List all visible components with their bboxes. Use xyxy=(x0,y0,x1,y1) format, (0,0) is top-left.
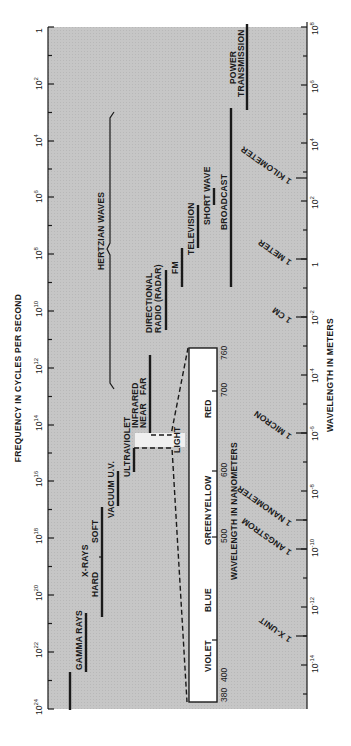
wavelength-tick-label: 104 xyxy=(309,138,320,151)
wavelength-tick-label: 10-12 xyxy=(309,596,320,615)
nm-axis-title: WAVELENGTH IN NANOMETERS xyxy=(229,442,239,580)
frequency-tick-label: 1016 xyxy=(33,470,44,487)
wavelength-tick-label: 106 xyxy=(309,80,320,93)
x-rays-label: X-RAYS xyxy=(80,544,90,577)
frequency-tick-label: 1022 xyxy=(33,641,44,658)
wavelength-tick-label: 1 xyxy=(310,262,320,267)
wavelength-axis-title: WAVELENGTH IN METERS xyxy=(325,318,335,432)
wavelength-tick-label: 10-6 xyxy=(309,426,320,441)
wavelength-tick-label: 10-4 xyxy=(309,368,320,383)
nm-tick-760: 760 xyxy=(219,346,229,360)
wavelength-tick-label: 10-2 xyxy=(309,310,320,325)
directional-label-2: RADIO (RADAR) xyxy=(153,264,163,333)
frequency-tick-label: 1014 xyxy=(33,414,44,431)
color-green: GREEN xyxy=(203,514,213,545)
frequency-tick-label: 106 xyxy=(33,190,44,203)
color-violet: VIOLET xyxy=(203,639,213,672)
gamma-rays-label: GAMMA RAYS xyxy=(74,610,84,670)
frequency-tick-label: 1024 xyxy=(33,698,44,715)
spectrum-band-background xyxy=(48,27,307,709)
hertzian-waves-label: HERTZIAN WAVES xyxy=(96,192,106,270)
television-label: TELEVISION xyxy=(186,202,196,255)
frequency-axis-title: FREQUENCY IN CYCLES PER SECOND xyxy=(13,294,23,462)
em-spectrum-diagram: 1102104106108101010121014101610181020102… xyxy=(0,0,351,746)
fm-label: FM xyxy=(170,261,180,274)
infrared-near-label: NEAR xyxy=(138,403,148,428)
nm-tick-700: 700 xyxy=(219,383,229,397)
vacuum-uv-label: VACUUM U.V. xyxy=(106,461,116,518)
frequency-tick-label: 102 xyxy=(33,77,44,90)
light-label: LIGHT xyxy=(172,426,182,453)
nm-tick-600: 600 xyxy=(219,463,229,477)
frequency-tick-label: 104 xyxy=(33,134,44,147)
frequency-tick-label: 1020 xyxy=(33,584,44,601)
nm-tick-380: 380 xyxy=(219,688,229,702)
frequency-tick-label: 1010 xyxy=(33,300,44,317)
wavelength-tick-label: 10-14 xyxy=(309,654,320,673)
nm-tick-400: 400 xyxy=(219,668,229,682)
color-blue: BLUE xyxy=(203,588,213,612)
xray-hard-label: HARD xyxy=(90,572,100,597)
wavelength-tick-label: 10-8 xyxy=(309,484,320,499)
wavelength-tick-label: 108 xyxy=(309,22,320,35)
xray-soft-label: SOFT xyxy=(90,519,100,543)
frequency-tick-label: 1012 xyxy=(33,357,44,374)
frequency-axis: 1102104106108101010121014101610181020102… xyxy=(13,27,54,715)
wavelength-tick-label: 10-10 xyxy=(309,538,320,557)
frequency-tick-label: 108 xyxy=(33,247,44,260)
power-label-2: TRANSMISSION xyxy=(236,29,246,97)
frequency-tick-label: 1 xyxy=(34,28,44,33)
broadcast-label: BROADCAST xyxy=(219,173,229,230)
short-wave-label: SHORT WAVE xyxy=(202,166,212,225)
color-yellow: YELLOW xyxy=(203,475,213,513)
nm-tick-500: 500 xyxy=(219,529,229,543)
infrared-far-label: FAR xyxy=(138,377,148,395)
wavelength-tick-label: 102 xyxy=(309,196,320,209)
frequency-tick-label: 1018 xyxy=(33,527,44,544)
color-red: RED xyxy=(203,399,213,418)
